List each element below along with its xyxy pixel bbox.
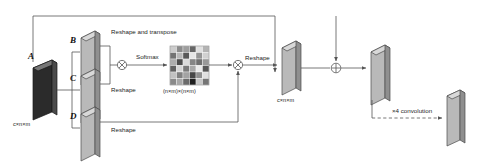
- matmul-icon-2: [233, 60, 242, 69]
- tensor-sum-block: [371, 45, 390, 105]
- d-reshape-path: [100, 71, 238, 122]
- tensor-final-output-block: [447, 90, 465, 146]
- attention-cell: [190, 79, 197, 86]
- tensor-d-label: D: [70, 112, 77, 121]
- attention-cell: [183, 53, 190, 60]
- tensor-b-label: B: [70, 36, 76, 45]
- matmul-input-bracket: [100, 46, 117, 84]
- attention-cell: [196, 79, 203, 86]
- attention-cell: [196, 59, 203, 66]
- attention-cell: [183, 66, 190, 73]
- reshape-transpose-label: Reshape and transpose: [111, 29, 177, 35]
- attention-cell: [183, 79, 190, 86]
- attention-cell: [196, 53, 203, 60]
- attention-cell: [203, 53, 210, 60]
- add-icon: [331, 63, 341, 73]
- attention-cell: [203, 46, 210, 53]
- diagram-canvas: A c×n×m B C D Reshape and transpose Resh…: [0, 0, 490, 167]
- attention-cell: [170, 72, 177, 79]
- attention-cell: [177, 46, 184, 53]
- attention-cell: [170, 79, 177, 86]
- convolution-label: ×4 convolution: [392, 108, 432, 114]
- attention-cell: [170, 59, 177, 66]
- attention-cell: [183, 72, 190, 79]
- attention-cell: [190, 53, 197, 60]
- attention-cell: [203, 79, 210, 86]
- tensor-a-dim-label: c×n×m: [13, 122, 30, 128]
- attention-cell: [177, 53, 184, 60]
- attention-cell: [170, 66, 177, 73]
- attention-cell: [177, 59, 184, 66]
- attention-cell: [190, 66, 197, 73]
- reshape-bottom-label: Reshape: [111, 127, 136, 133]
- reshape-mid-label: Reshape: [111, 87, 136, 93]
- attention-cell: [190, 72, 197, 79]
- attention-cell: [183, 59, 190, 66]
- attention-map-dim-label: (n×m)×(n×m): [163, 89, 196, 95]
- matmul-icon-1: [117, 60, 126, 69]
- attention-cell: [196, 66, 203, 73]
- tensor-c-label: C: [70, 74, 76, 83]
- tensor-d-block: [81, 107, 100, 161]
- attention-cell: [203, 72, 210, 79]
- attention-cell: [190, 46, 197, 53]
- softmax-label: Softmax: [136, 54, 159, 60]
- attention-cell: [190, 59, 197, 66]
- tensor-a-block: [33, 60, 57, 120]
- attention-cell: [196, 46, 203, 53]
- attention-map-grid: [170, 46, 209, 85]
- attention-cell: [177, 72, 184, 79]
- attention-cell: [203, 66, 210, 73]
- tensor-attention-output-block: [282, 41, 301, 95]
- attention-output-dim-label: c×n×m: [277, 98, 294, 104]
- attention-cell: [196, 72, 203, 79]
- attention-cell: [177, 79, 184, 86]
- tensor-a-label: A: [28, 52, 34, 61]
- attention-cell: [170, 46, 177, 53]
- attention-cell: [183, 46, 190, 53]
- attention-cell: [177, 66, 184, 73]
- diagram-svg: [0, 0, 490, 167]
- attention-cell: [203, 59, 210, 66]
- attention-cell: [170, 53, 177, 60]
- reshape-right-label: Reshape: [245, 55, 270, 61]
